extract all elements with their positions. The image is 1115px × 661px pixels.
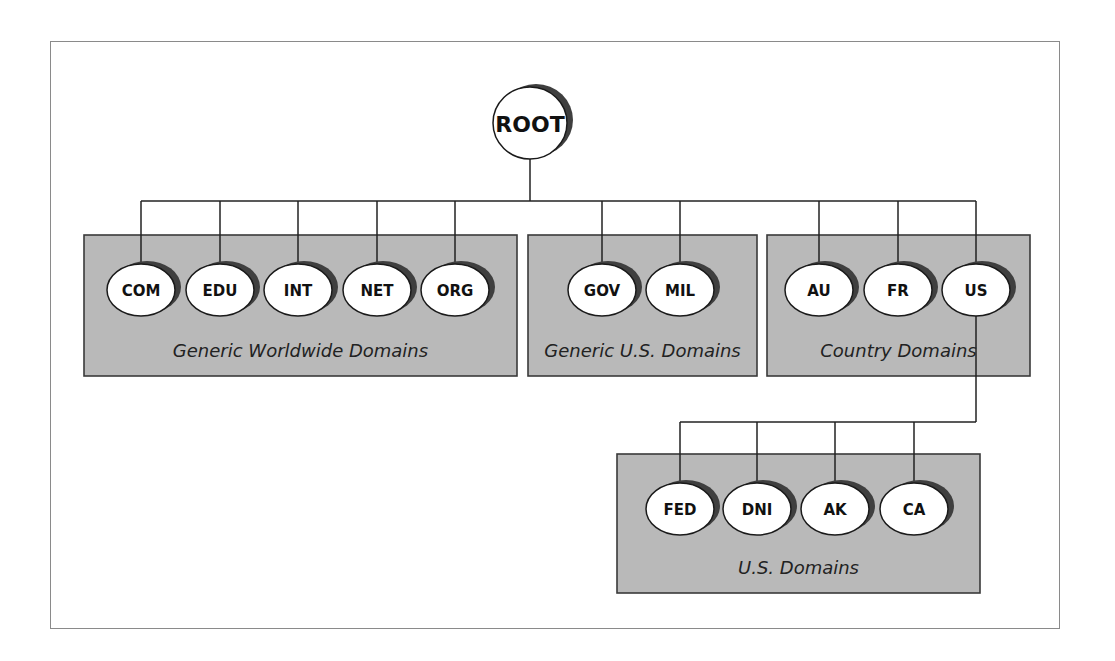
node-label-root: ROOT bbox=[495, 112, 564, 137]
node-label-us: US bbox=[965, 282, 988, 300]
node-label-com: COM bbox=[122, 282, 161, 300]
node-label-au: AU bbox=[807, 282, 830, 300]
node-label-edu: EDU bbox=[203, 282, 238, 300]
dns-hierarchy-diagram: Generic Worldwide DomainsGeneric U.S. Do… bbox=[0, 0, 1115, 661]
node-label-dni: DNI bbox=[742, 501, 773, 519]
node-label-ak: AK bbox=[823, 501, 848, 519]
node-label-org: ORG bbox=[437, 282, 474, 300]
group-label-country: Country Domains bbox=[820, 340, 976, 361]
group-generic-us: Generic U.S. Domains bbox=[528, 235, 757, 376]
node-label-gov: GOV bbox=[584, 282, 621, 300]
node-label-mil: MIL bbox=[665, 282, 696, 300]
group-label-us-domains: U.S. Domains bbox=[738, 557, 859, 578]
node-root: ROOT bbox=[493, 84, 573, 159]
group-label-generic-worldwide: Generic Worldwide Domains bbox=[173, 340, 428, 361]
node-label-ca: CA bbox=[903, 501, 926, 519]
node-label-int: INT bbox=[284, 282, 313, 300]
node-label-fr: FR bbox=[887, 282, 909, 300]
node-label-net: NET bbox=[360, 282, 394, 300]
group-label-generic-us: Generic U.S. Domains bbox=[544, 340, 741, 361]
node-label-fed: FED bbox=[664, 501, 697, 519]
